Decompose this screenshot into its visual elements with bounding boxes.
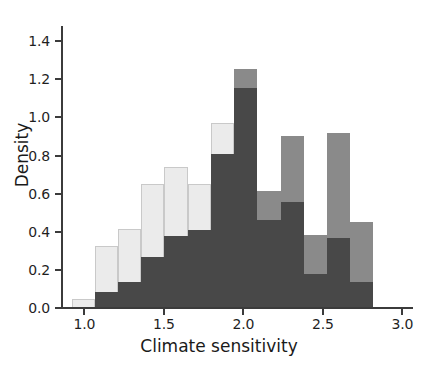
x-axis-title: Climate sensitivity [0, 336, 438, 356]
plot-area [62, 26, 412, 308]
x-tick-label: 1.0 [59, 317, 109, 331]
y-tick-mark [55, 307, 61, 309]
x-tick-mark [322, 309, 324, 315]
x-tick-mark [401, 309, 403, 315]
x-tick-label: 2.0 [218, 317, 268, 331]
histogram-bar [257, 220, 280, 308]
y-tick-mark [55, 155, 61, 157]
histogram-bar [350, 282, 373, 308]
y-tick-mark [55, 78, 61, 80]
y-tick-label: 0.0 [6, 301, 50, 315]
x-tick-label: 3.0 [377, 317, 427, 331]
y-tick-mark [55, 193, 61, 195]
bar-layer [62, 26, 412, 308]
x-tick-label: 1.5 [139, 317, 189, 331]
histogram-figure: 0.00.20.40.60.81.01.21.4 1.01.52.02.53.0… [0, 0, 438, 365]
histogram-bar [95, 292, 118, 308]
histogram-bar [188, 230, 211, 308]
y-tick-mark [55, 269, 61, 271]
histogram-bar [234, 88, 257, 308]
histogram-bar [118, 282, 141, 308]
y-tick-mark [55, 231, 61, 233]
x-tick-label: 2.5 [298, 317, 348, 331]
x-tick-mark [83, 309, 85, 315]
y-axis-spine [61, 26, 63, 309]
x-tick-mark [163, 309, 165, 315]
histogram-bar [327, 238, 350, 308]
x-axis-spine [61, 307, 413, 309]
histogram-bar [164, 236, 187, 308]
y-tick-label: 1.4 [6, 34, 50, 48]
y-tick-mark [55, 40, 61, 42]
histogram-bar [141, 257, 164, 308]
x-tick-mark [242, 309, 244, 315]
histogram-bar [304, 274, 327, 308]
histogram-bar [211, 154, 234, 308]
y-tick-label: 0.2 [6, 263, 50, 277]
y-tick-mark [55, 116, 61, 118]
y-axis-title: Density [12, 55, 32, 255]
histogram-bar [281, 202, 304, 308]
